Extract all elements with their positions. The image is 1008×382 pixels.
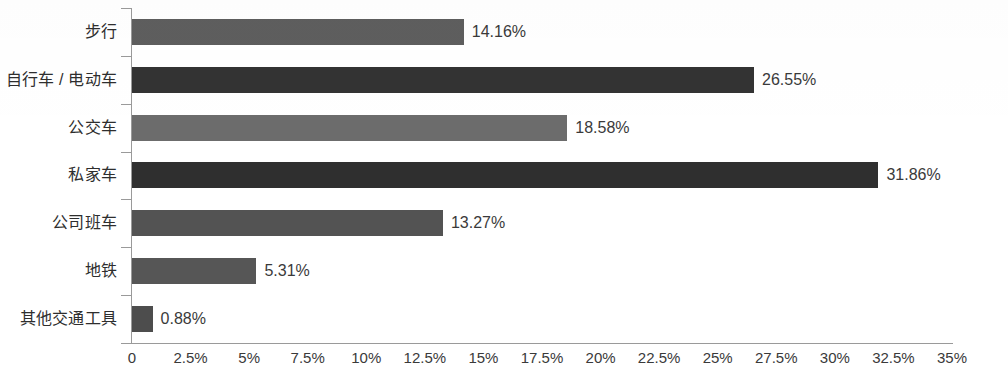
- bar-row: 其他交通工具0.88%: [0, 295, 1008, 343]
- bar-value-label: 13.27%: [451, 215, 505, 231]
- x-axis-tick-label: 2.5%: [173, 350, 207, 365]
- category-label: 地铁: [85, 263, 117, 279]
- bar: [132, 258, 256, 284]
- category-label: 其他交通工具: [20, 311, 117, 327]
- bar-value-label: 14.16%: [472, 24, 526, 40]
- x-axis-tick-label: 12.5%: [404, 350, 447, 365]
- bar-value-label: 18.58%: [575, 120, 629, 136]
- y-axis-tick: [121, 343, 132, 344]
- x-axis-tick-label: 5%: [238, 350, 260, 365]
- x-axis-tick-label: 17.5%: [521, 350, 564, 365]
- bar-chart: 步行14.16%自行车 / 电动车26.55%公交车18.58%私家车31.86…: [0, 0, 1008, 382]
- x-axis-tick-label: 7.5%: [291, 350, 325, 365]
- bar-value-label: 5.31%: [264, 263, 309, 279]
- x-axis-tick-label: 25%: [703, 350, 733, 365]
- bar: [132, 67, 754, 93]
- x-axis-tick-label: 32.5%: [872, 350, 915, 365]
- bar: [132, 115, 567, 141]
- x-axis-tick-label: 15%: [468, 350, 498, 365]
- category-label: 公司班车: [52, 215, 117, 231]
- bar-value-label: 0.88%: [161, 311, 206, 327]
- category-label: 私家车: [68, 167, 117, 183]
- bar-value-label: 26.55%: [762, 72, 816, 88]
- bar: [132, 210, 443, 236]
- bar-row: 公交车18.58%: [0, 104, 1008, 152]
- x-axis-tick-label: 10%: [351, 350, 381, 365]
- bar: [132, 162, 878, 188]
- bar-row: 私家车31.86%: [0, 152, 1008, 200]
- bar-row: 步行14.16%: [0, 8, 1008, 56]
- x-axis-tick-label: 35%: [937, 350, 967, 365]
- bar-value-label: 31.86%: [886, 167, 940, 183]
- bar-row: 公司班车13.27%: [0, 199, 1008, 247]
- bar-row: 地铁5.31%: [0, 247, 1008, 295]
- bar: [132, 306, 153, 332]
- bar: [132, 19, 464, 45]
- x-axis-tick-label: 27.5%: [755, 350, 798, 365]
- bar-row: 自行车 / 电动车26.55%: [0, 56, 1008, 104]
- x-axis-tick-label: 0: [128, 350, 136, 365]
- x-axis-tick-label: 20%: [586, 350, 616, 365]
- x-axis-line: [131, 343, 953, 344]
- x-axis-tick-label: 30%: [820, 350, 850, 365]
- category-label: 步行: [85, 24, 117, 40]
- category-label: 自行车 / 电动车: [6, 72, 117, 88]
- x-axis-tick-label: 22.5%: [638, 350, 681, 365]
- category-label: 公交车: [68, 120, 117, 136]
